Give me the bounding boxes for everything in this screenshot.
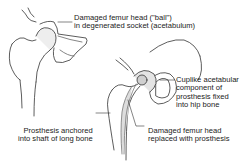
label-damaged-femur-head: Damaged femur head ("ball") in degenerat… [74, 14, 195, 31]
label-femur-head-replaced: Damaged femur head replaced with prosthe… [148, 127, 229, 144]
label-line: into hip bone [176, 101, 239, 109]
label-line: into shaft of long bone [18, 135, 93, 143]
label-line: in degenerated socket (acetabulum) [74, 22, 195, 30]
label-cuplike-component: Cuplike acetabular component of prosthes… [176, 76, 239, 110]
label-prosthesis-anchored: Prosthesis anchored into shaft of long b… [18, 127, 93, 144]
leader-lines [58, 22, 174, 126]
label-line: replaced with prosthesis [148, 135, 229, 143]
